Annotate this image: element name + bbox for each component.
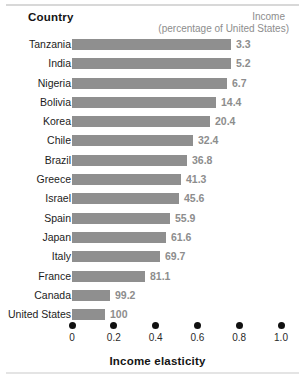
bar: [72, 58, 231, 69]
bar-value-label: 20.4: [215, 115, 235, 127]
row-label-country: Bolivia: [40, 96, 71, 108]
x-axis-tick-label: 0: [69, 332, 75, 343]
x-axis-tick-dot: [236, 322, 243, 329]
x-axis-title: Income elasticity: [0, 355, 305, 367]
bar-value-label: 41.3: [186, 173, 206, 185]
x-axis-tick-label: 1.0: [274, 332, 288, 343]
bar-value-label: 99.2: [115, 289, 135, 301]
row-label-country: Italy: [52, 250, 71, 262]
bar-value-label: 32.4: [198, 134, 218, 146]
bar-value-label: 61.6: [171, 231, 191, 243]
x-axis-tick-label: 0.8: [232, 332, 246, 343]
row-label-country: Chile: [47, 134, 71, 146]
x-axis: 00.20.40.60.81.0: [0, 322, 305, 352]
bar: [72, 271, 145, 282]
table-row: Italy69.7: [0, 248, 305, 267]
bar-value-label: 69.7: [165, 250, 185, 262]
row-label-country: France: [38, 270, 71, 282]
row-label-country: Israel: [45, 192, 71, 204]
x-axis-tick-dot: [278, 322, 285, 329]
bar-value-label: 55.9: [175, 212, 195, 224]
table-row: Japan61.6: [0, 229, 305, 248]
row-label-country: Japan: [42, 231, 71, 243]
table-row: Greece41.3: [0, 171, 305, 190]
bar-value-label: 45.6: [184, 192, 204, 204]
bar-rows: Tanzania3.3India5.2Nigeria6.7Bolivia14.4…: [0, 36, 305, 325]
table-row: Brazil36.8: [0, 152, 305, 171]
table-row: France81.1: [0, 268, 305, 287]
row-label-country: India: [48, 57, 71, 69]
row-label-country: United States: [8, 308, 71, 320]
x-axis-title-text: Income elasticity: [109, 355, 205, 367]
income-elasticity-chart: Country Income (percentage of United Sta…: [0, 0, 305, 376]
bar-value-label: 14.4: [221, 96, 241, 108]
bar: [72, 213, 170, 224]
bar-value-label: 5.2: [236, 57, 251, 69]
bar-value-label: 6.7: [232, 77, 247, 89]
row-label-country: Nigeria: [38, 77, 71, 89]
x-axis-tick-dot: [194, 322, 201, 329]
bar: [72, 193, 179, 204]
bar: [72, 290, 110, 301]
x-axis-tick-dot: [152, 322, 159, 329]
row-label-country: Tanzania: [29, 38, 71, 50]
bar: [72, 232, 166, 243]
chart-header: Country Income (percentage of United Sta…: [0, 11, 305, 37]
x-axis-tick-label: 0.6: [190, 332, 204, 343]
row-label-country: Spain: [44, 212, 71, 224]
column-header-income-sublabel: (percentage of United States): [0, 23, 289, 35]
bar: [72, 251, 160, 262]
bar: [72, 135, 193, 146]
top-divider: [6, 4, 299, 6]
x-axis-tick-dot: [110, 322, 117, 329]
bar: [72, 174, 181, 185]
row-label-country: Canada: [34, 289, 71, 301]
column-header-income: Income: [0, 11, 285, 23]
bar: [72, 116, 210, 127]
bar-value-label: 81.1: [150, 270, 170, 282]
bar-value-label: 100: [110, 308, 128, 320]
bar: [72, 309, 105, 320]
bar: [72, 97, 216, 108]
x-axis-tick-label: 0.4: [149, 332, 163, 343]
row-label-country: Greece: [37, 173, 71, 185]
table-row: Nigeria6.7: [0, 75, 305, 94]
table-row: Chile32.4: [0, 132, 305, 151]
x-axis-tick-label: 0.2: [107, 332, 121, 343]
bar: [72, 155, 187, 166]
row-label-country: Brazil: [45, 154, 71, 166]
x-axis-tick-dot: [69, 322, 76, 329]
table-row: Spain55.9: [0, 210, 305, 229]
table-row: Bolivia14.4: [0, 94, 305, 113]
table-row: Israel45.6: [0, 190, 305, 209]
table-row: Korea20.4: [0, 113, 305, 132]
table-row: India5.2: [0, 55, 305, 74]
bar: [72, 78, 227, 89]
bar: [72, 39, 231, 50]
bar-value-label: 3.3: [236, 38, 251, 50]
table-row: Canada99.2: [0, 287, 305, 306]
table-row: Tanzania3.3: [0, 36, 305, 55]
bar-value-label: 36.8: [192, 154, 212, 166]
bottom-divider: [6, 372, 299, 374]
row-label-country: Korea: [43, 115, 71, 127]
